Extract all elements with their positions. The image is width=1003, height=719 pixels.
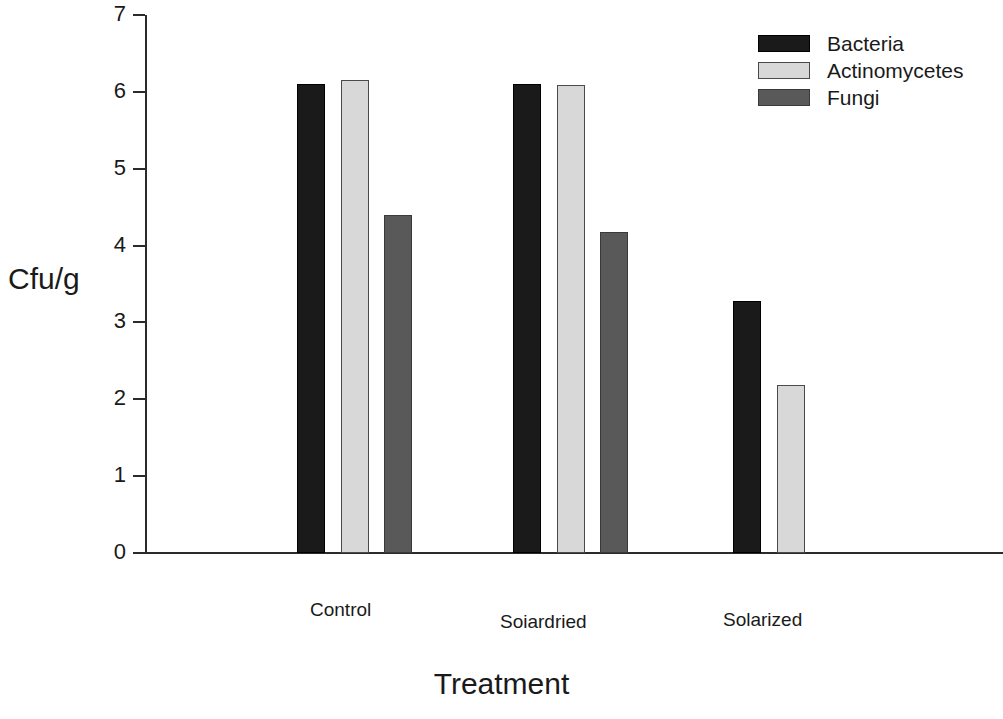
legend-label-actinomycetes: Actinomycetes bbox=[827, 60, 964, 82]
legend-label-bacteria: Bacteria bbox=[827, 33, 904, 55]
x-axis-label-solarized: Solarized bbox=[723, 610, 802, 630]
y-axis-line bbox=[145, 15, 147, 554]
y-tick-mark bbox=[133, 321, 145, 323]
bar-actinomycetes-solarized bbox=[777, 385, 805, 553]
y-tick-label-text: 3 bbox=[88, 310, 126, 332]
bar-chart-figure: 01234567 ControlSoiardriedSolarized Cfu/… bbox=[0, 0, 1003, 719]
y-tick-label-text: 1 bbox=[88, 464, 126, 486]
y-tick-mark bbox=[133, 91, 145, 93]
x-axis-label-soiardried: Soiardried bbox=[500, 612, 587, 632]
y-tick-label-text: 6 bbox=[88, 80, 126, 102]
y-tick-label-text: 5 bbox=[88, 157, 126, 179]
y-tick-mark bbox=[133, 398, 145, 400]
y-tick-label: 4 bbox=[78, 234, 126, 256]
legend-swatch-actinomycetes bbox=[758, 62, 810, 79]
x-axis-title: Treatment bbox=[0, 667, 1003, 701]
y-tick-label: 2 bbox=[78, 387, 126, 409]
y-tick-label: 0 bbox=[78, 541, 126, 563]
y-tick-label-text: 7 bbox=[88, 3, 126, 25]
bar-fungi-soiardried bbox=[600, 232, 628, 553]
chart-legend: Bacteria Actinomycetes Fungi bbox=[758, 30, 998, 111]
legend-item-actinomycetes: Actinomycetes bbox=[758, 57, 998, 84]
y-tick-label: 1 bbox=[78, 464, 126, 486]
y-tick-mark bbox=[133, 552, 145, 554]
y-tick-label: 7 bbox=[78, 3, 126, 25]
legend-label-fungi: Fungi bbox=[827, 87, 880, 109]
bar-bacteria-control bbox=[297, 84, 325, 553]
legend-swatch-fungi bbox=[758, 89, 810, 106]
legend-item-fungi: Fungi bbox=[758, 84, 998, 111]
legend-swatch-bacteria bbox=[758, 35, 810, 52]
y-tick-mark bbox=[133, 245, 145, 247]
bar-actinomycetes-soiardried bbox=[557, 85, 585, 553]
y-tick-label-text: 0 bbox=[88, 541, 126, 563]
y-tick-mark bbox=[133, 14, 145, 16]
y-tick-label: 6 bbox=[78, 80, 126, 102]
y-tick-mark bbox=[133, 475, 145, 477]
bar-bacteria-soiardried bbox=[513, 84, 541, 553]
y-tick-label: 5 bbox=[78, 157, 126, 179]
y-axis-title: Cfu/g bbox=[8, 262, 80, 296]
legend-item-bacteria: Bacteria bbox=[758, 30, 998, 57]
bar-actinomycetes-control bbox=[341, 80, 369, 553]
y-tick-label-text: 4 bbox=[88, 234, 126, 256]
y-tick-mark bbox=[133, 168, 145, 170]
bar-bacteria-solarized bbox=[733, 301, 761, 553]
bar-fungi-control bbox=[384, 215, 412, 553]
x-axis-label-control: Control bbox=[310, 600, 371, 620]
y-tick-label: 3 bbox=[78, 310, 126, 332]
y-tick-label-text: 2 bbox=[88, 387, 126, 409]
